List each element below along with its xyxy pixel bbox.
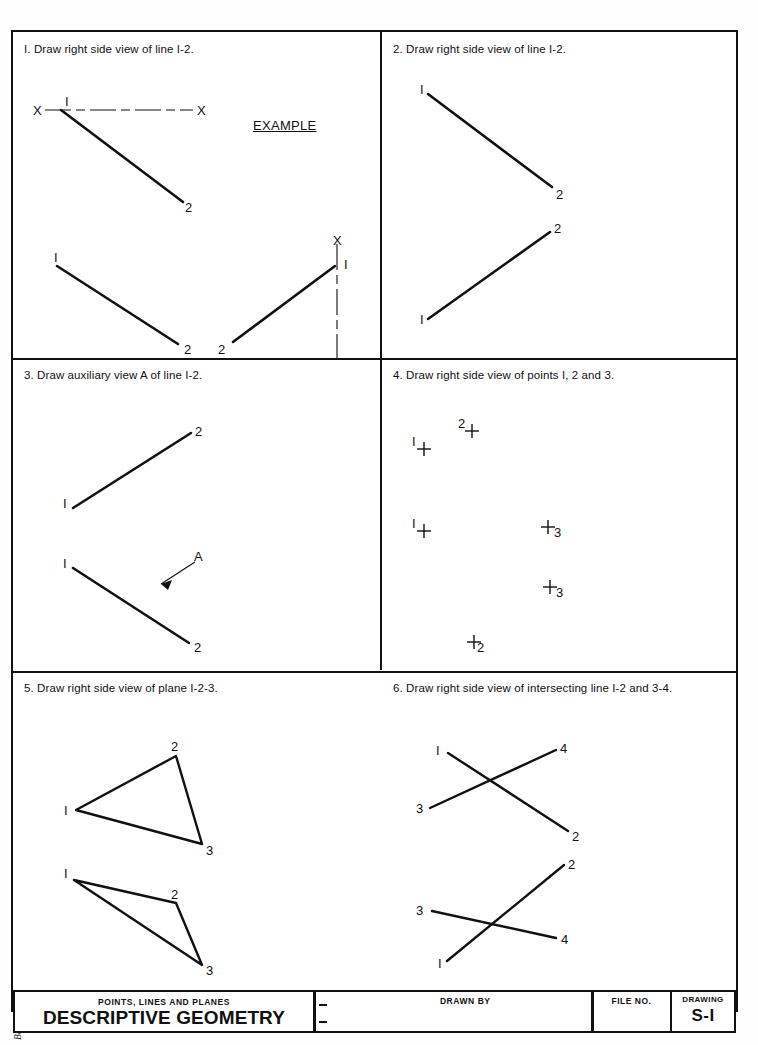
label-1: I: [436, 743, 440, 758]
label-2: 2: [171, 887, 178, 902]
label-1: I: [344, 257, 348, 272]
label-3: 3: [206, 843, 213, 858]
title-block-subtitle: POINTS, LINES AND PLANES: [98, 997, 230, 1007]
title-block-bracket: [316, 992, 340, 1031]
panel-2-labels: I 2 2 I: [382, 32, 736, 358]
title-block: POINTS, LINES AND PLANES DESCRIPTIVE GEO…: [13, 990, 736, 1033]
panel-2: 2. Draw right side view of line I-2. I 2…: [382, 32, 736, 358]
drawing-frame: I. Draw right side view of line I-2.: [11, 30, 738, 1012]
label-2: 2: [572, 829, 579, 844]
panel-6-labels: I 4 3 2 2 3 4 I: [382, 673, 736, 978]
label-2: 2: [556, 187, 563, 202]
label-a: A: [194, 549, 203, 564]
label-1: I: [65, 94, 69, 109]
label-2: 2: [554, 221, 561, 236]
label-3: 3: [206, 963, 213, 978]
title-block-main: POINTS, LINES AND PLANES DESCRIPTIVE GEO…: [15, 992, 313, 1031]
point-label-2: 2: [458, 416, 465, 431]
worksheet-sheet: Copyright © by Glencoe/McGraw-Hill. Basi…: [0, 0, 758, 1045]
label-2: 2: [194, 640, 201, 655]
label-2: 2: [185, 200, 192, 215]
drawing-no-field: DRAWING S-I: [672, 992, 734, 1031]
file-no-label: FILE NO.: [594, 996, 670, 1006]
title-block-title: DESCRIPTIVE GEOMETRY: [43, 1008, 285, 1027]
point-label-1: I: [412, 516, 416, 531]
label-x: X: [333, 233, 342, 248]
label-3: 3: [416, 801, 423, 816]
label-4: 4: [560, 741, 567, 756]
panel-3: 3. Draw auxiliary view A of line I-2. 2 …: [13, 360, 380, 671]
label-3: 3: [416, 903, 423, 918]
example-label: EXAMPLE: [253, 118, 317, 133]
drawn-by-label: DRAWN BY: [340, 996, 592, 1006]
panel-1-labels: X I X 2 I 2 2 X I X: [13, 32, 380, 358]
label-2: 2: [184, 342, 191, 357]
label-x: X: [197, 103, 206, 118]
label-1: I: [438, 956, 442, 971]
file-no-field[interactable]: FILE NO.: [594, 992, 670, 1031]
label-2: 2: [568, 857, 575, 872]
label-1: I: [63, 496, 67, 511]
panel-4: 4. Draw right side view of points I, 2 a…: [382, 360, 736, 671]
label-4: 4: [561, 932, 568, 947]
label-2: 2: [218, 342, 225, 357]
panel-1: I. Draw right side view of line I-2.: [13, 32, 380, 358]
point-label-3: 3: [554, 525, 561, 540]
drawn-by-field[interactable]: DRAWN BY: [340, 992, 592, 1031]
label-1: I: [54, 250, 58, 265]
label-x: X: [33, 103, 42, 118]
panel-4-labels: 2 I 3 I 3 2: [382, 360, 736, 671]
label-2: 2: [195, 424, 202, 439]
label-1: I: [63, 556, 67, 571]
label-1: I: [64, 803, 68, 818]
label-2: 2: [171, 739, 178, 754]
drawing-label: DRAWING: [672, 995, 734, 1004]
panel-5-labels: 2 I 3 I 2 3: [13, 673, 380, 978]
panel-6: 6. Draw right side view of intersecting …: [382, 673, 736, 978]
label-1: I: [64, 866, 68, 881]
point-label-3: 3: [556, 585, 563, 600]
panel-3-labels: 2 I I A 2: [13, 360, 380, 671]
point-label-1: I: [412, 434, 416, 449]
panel-5: 5. Draw right side view of plane I-2-3. …: [13, 673, 380, 978]
label-1: I: [420, 312, 424, 327]
drawing-value: S-I: [672, 1006, 734, 1026]
label-1: I: [420, 82, 424, 97]
point-label-2: 2: [477, 640, 484, 655]
